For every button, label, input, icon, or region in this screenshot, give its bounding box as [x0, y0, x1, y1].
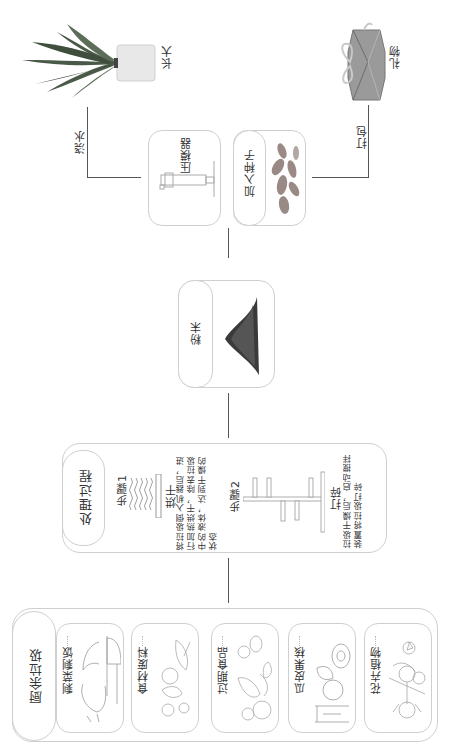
waste-item-expired-food: 过期食品 — [211, 623, 279, 733]
heat-waves-icon — [129, 474, 163, 518]
packing-label: 打包 — [355, 125, 371, 149]
crusher-blades-icon — [243, 464, 325, 536]
connector-mold-to-powder — [228, 228, 229, 258]
process-node: 处理过程 步骤1 烘干 将拉圾倒入机器后，进行加热烘干，除去拉圾中的液体，达到干… — [62, 443, 387, 553]
mold-press-icon — [155, 161, 217, 223]
connector-watering-horizontal — [87, 177, 141, 178]
fruit-peel-icon — [311, 634, 353, 724]
food-scraps-icon — [156, 636, 196, 722]
connector-kitchen-to-process — [228, 558, 229, 603]
kitchen-waste-node: 厨余垃圾 剩菜剩饭 食材废料 — [12, 608, 438, 742]
gift-box-image — [340, 22, 388, 102]
grow-label: 长大 — [160, 45, 176, 69]
powder-pile-icon — [223, 295, 263, 377]
kitchen-waste-title: 厨余垃圾 — [26, 648, 45, 704]
seeds-node: 加入种子 — [233, 130, 306, 226]
powder-node: 粉末 — [178, 280, 275, 388]
process-title: 处理过程 — [76, 469, 95, 525]
powder-label: 粉末 — [189, 321, 205, 345]
waste-item-label: 剩菜剩饭 — [61, 646, 77, 694]
connector-process-to-powder — [228, 393, 229, 438]
waste-item-label: 瓜皮果核 — [293, 646, 309, 694]
kitchen-waste-title-pill: 厨余垃圾 — [12, 611, 56, 741]
step2-label: 步骤2 — [228, 480, 244, 512]
process-title-pill: 处理过程 — [62, 450, 105, 546]
potted-plant-image — [17, 22, 157, 100]
leftovers-icon — [77, 634, 121, 724]
gift-label: 礼物 — [388, 45, 404, 69]
connector-packing-horizontal — [312, 177, 369, 178]
waste-item-flowers: 花卉植物 — [364, 623, 432, 733]
flowers-icon — [385, 634, 429, 724]
step2-description: 拉圾干燥后，启动搅拌装置将拉圾打碎 — [343, 452, 369, 548]
expired-food-icon — [234, 634, 276, 724]
waste-item-label: 花卉植物 — [369, 646, 385, 694]
waste-item-food-scraps: 食材废料 — [131, 623, 199, 733]
waste-item-label: 过期食品 — [216, 646, 232, 694]
step1-description: 将拉圾倒入机器后，进行加热烘干，除去拉圾中的液体，达到干燥的状态 — [176, 450, 226, 550]
mold-node: 压模器 — [148, 130, 221, 226]
waste-item-label: 食材废料 — [136, 646, 152, 694]
waste-item-leftovers: 剩菜剩饭 — [56, 623, 124, 733]
waste-item-fruit-peel: 瓜皮果核 — [288, 623, 356, 733]
powder-label-pill: 粉末 — [178, 280, 213, 388]
seeds-label: 加入种子 — [243, 149, 259, 197]
seeds-label-pill: 加入种子 — [233, 130, 266, 226]
watering-label: 浇水 — [73, 130, 89, 154]
seeds-icon — [270, 139, 302, 219]
